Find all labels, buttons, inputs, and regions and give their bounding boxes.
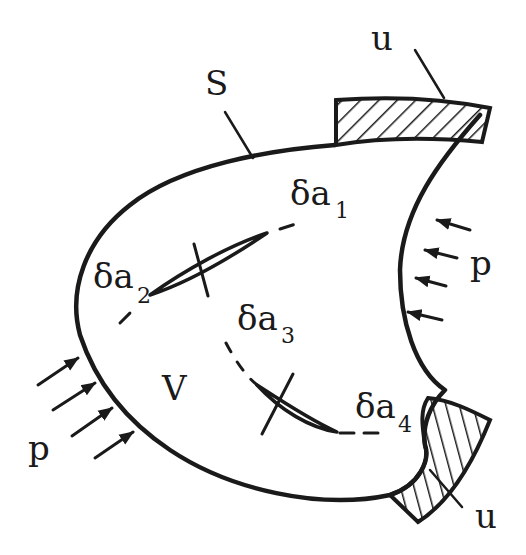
svg-text:3: 3 — [281, 323, 295, 348]
svg-text:δa: δa — [93, 256, 134, 296]
u-top-leader — [415, 50, 444, 98]
crack-label-4: δa 4 — [355, 386, 412, 437]
svg-text:δa: δa — [290, 173, 331, 213]
p-left-label: p — [28, 428, 50, 468]
surface-label: S — [205, 63, 228, 103]
diagram-canvas: S u u p p V δa 1 δa 2 δa 3 δa 4 — [0, 0, 526, 555]
u-bottom-label: u — [475, 496, 497, 536]
diagram-svg: S u u p p V δa 1 δa 2 δa 3 δa 4 — [0, 0, 526, 555]
svg-text:δa: δa — [237, 298, 278, 338]
crack-label-1: δa 1 — [290, 173, 349, 223]
svg-text:4: 4 — [398, 412, 412, 437]
svg-text:δa: δa — [355, 386, 396, 426]
svg-text:1: 1 — [335, 198, 349, 223]
crack-label-3: δa 3 — [237, 298, 295, 348]
p-right-label: p — [470, 243, 492, 283]
right-traction-arrows — [408, 220, 470, 320]
svg-text:2: 2 — [137, 283, 151, 308]
u-top-label: u — [371, 18, 393, 58]
surface-leader — [225, 112, 253, 158]
volume-label: V — [161, 368, 188, 408]
crack-label-2: δa 2 — [93, 256, 151, 308]
top-support — [336, 98, 490, 145]
